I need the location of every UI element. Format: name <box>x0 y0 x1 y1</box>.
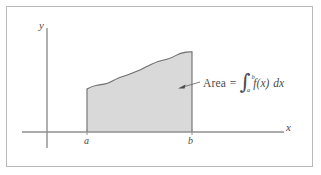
integral-lower-limit: a <box>247 86 250 93</box>
area-label: Area <box>203 77 226 89</box>
integral-limits: b a <box>250 74 253 92</box>
definite-integral-expression: ∫ b a f(x) dx <box>240 74 285 92</box>
integrand-expression: f(x) <box>253 77 269 89</box>
tick-label-a: a <box>84 136 89 146</box>
area-formula-annotation: Area = ∫ b a f(x) dx <box>203 74 284 92</box>
differential-dx: dx <box>273 77 284 89</box>
tick-label-b: b <box>188 136 193 146</box>
x-axis-label: x <box>286 122 291 133</box>
y-axis-label: y <box>39 20 44 31</box>
equals-sign: = <box>230 77 237 89</box>
integral-upper-limit: b <box>252 73 255 80</box>
figure-container: y x a b Area = ∫ b a f(x) dx <box>0 0 321 175</box>
shaded-area-region <box>87 52 192 132</box>
